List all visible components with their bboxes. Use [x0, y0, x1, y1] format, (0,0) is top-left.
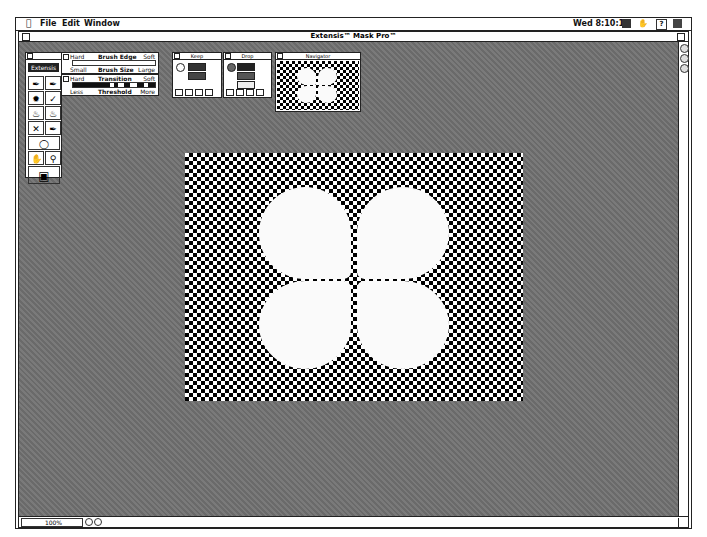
keep-dropper-icon[interactable] — [176, 63, 185, 72]
palette-close-box[interactable] — [63, 54, 69, 60]
keep-color-swatch[interactable] — [188, 72, 206, 80]
mask-petal-bottom-left — [259, 281, 351, 369]
magic-wand-icon[interactable]: ◯ — [28, 136, 60, 150]
threshold-less-label: Less — [70, 88, 83, 95]
brush-edge-title: Brush Edge — [98, 53, 137, 60]
close-box[interactable] — [22, 33, 30, 41]
scroll-button[interactable] — [680, 44, 689, 53]
zoom-out-button[interactable] — [85, 518, 93, 526]
window-titlebar[interactable]: Extensis™ Mask Pro™ — [19, 32, 688, 42]
drop-color-swatch[interactable] — [237, 63, 255, 71]
zoom-box[interactable] — [677, 33, 685, 41]
brush-size-large-label: Large — [138, 66, 155, 73]
brush-edge-soft-label: Soft — [143, 53, 155, 60]
palette-close-box[interactable] — [63, 76, 69, 82]
palette-titlebar[interactable] — [26, 53, 61, 60]
preview-petal — [318, 68, 337, 85]
keep-new-button[interactable] — [185, 89, 193, 96]
keep-color-swatch[interactable] — [188, 63, 206, 71]
application-menu-icon[interactable] — [673, 19, 682, 28]
zoom-field[interactable]: 100% — [21, 518, 83, 527]
status-bar: 100% — [19, 516, 688, 527]
tools-palette: Extensis ✒✒ ✹✓ ♨♨ ✕✒ ◯ ✋⚲ ▣ — [25, 52, 62, 178]
transition-hard-label: Hard — [70, 75, 84, 82]
palette-close-box[interactable] — [27, 53, 33, 59]
drop-new-button[interactable] — [236, 89, 244, 96]
drop-dropper-icon[interactable]: ✒ — [45, 76, 61, 90]
preview-petal — [297, 68, 316, 85]
navigator-preview[interactable] — [277, 61, 359, 110]
grow-box[interactable] — [678, 518, 688, 527]
hand-icon[interactable]: ✋ — [28, 151, 44, 165]
image-canvas[interactable] — [185, 153, 523, 401]
scroll-button[interactable] — [680, 54, 689, 63]
pen-icon[interactable]: ✒ — [45, 121, 61, 135]
brush-size-title: Brush Size — [98, 66, 134, 73]
zoom-icon[interactable]: ⚲ — [45, 151, 61, 165]
threshold-title: Threshold — [98, 88, 132, 95]
help-icon[interactable]: ? — [656, 19, 667, 30]
mask-petal-top-left — [259, 187, 351, 279]
brush-palette: Hard Brush Edge Soft Small Brush Size La… — [61, 52, 159, 74]
window-title: Extensis™ Mask Pro™ — [311, 32, 397, 40]
zoom-value: 100% — [45, 519, 62, 526]
magic-fill-icon[interactable]: ♨ — [28, 106, 44, 120]
zoom-in-button[interactable] — [94, 518, 102, 526]
app-icon[interactable] — [622, 19, 631, 28]
transition-palette: Hard Transition Soft Less Threshold More — [61, 74, 159, 96]
menu-file[interactable]: File — [40, 19, 56, 28]
palette-close-box[interactable] — [225, 53, 231, 59]
keep-palette: Keep — [172, 52, 222, 98]
drop-trash-icon[interactable] — [246, 89, 254, 96]
transition-soft-label: Soft — [143, 75, 155, 82]
brush-edge-hard-label: Hard — [70, 53, 84, 60]
palette-titlebar[interactable]: Drop — [224, 53, 271, 60]
hand-icon[interactable]: ✋ — [638, 19, 647, 28]
palette-titlebar[interactable]: Navigator — [276, 53, 360, 60]
scroll-button[interactable] — [680, 64, 689, 73]
brush-icon[interactable]: ✓ — [45, 91, 61, 105]
drop-palette: Drop — [223, 52, 272, 98]
drop-color-swatch[interactable] — [237, 81, 255, 89]
brush-size-small-label: Small — [70, 66, 87, 73]
vertical-scrollbar[interactable] — [678, 42, 688, 516]
preview-petal — [318, 86, 337, 103]
keep-trash-icon[interactable] — [195, 89, 203, 96]
magic-pen-icon[interactable]: ✕ — [28, 121, 44, 135]
keep-add-button[interactable] — [175, 89, 183, 96]
apple-icon[interactable]:  — [26, 18, 31, 28]
keep-menu-button[interactable] — [205, 89, 213, 96]
menu-window[interactable]: Window — [84, 19, 120, 28]
keep-palette-title: Keep — [191, 53, 203, 59]
bucket-icon[interactable]: ♨ — [45, 106, 61, 120]
extensis-logo: Extensis — [28, 63, 59, 72]
keep-dropper-icon[interactable]: ✒ — [28, 76, 44, 90]
navigator-title: Navigator — [306, 53, 330, 59]
drop-dropper-icon[interactable] — [227, 63, 236, 72]
palette-close-box[interactable] — [277, 53, 283, 59]
screen:  File Edit Window Wed 8:10:17 ✋ ? Exten… — [15, 17, 692, 529]
mask-petal-top-right — [357, 187, 449, 279]
drop-palette-title: Drop — [241, 53, 253, 59]
workspace — [19, 42, 678, 516]
menubar:  File Edit Window Wed 8:10:17 ✋ ? — [16, 18, 691, 31]
drop-menu-button[interactable] — [256, 89, 264, 96]
navigator-palette: Navigator — [275, 52, 361, 112]
mask-view-icon[interactable]: ▣ — [28, 166, 60, 184]
transition-title: Transition — [98, 75, 132, 82]
drop-add-button[interactable] — [226, 89, 234, 96]
menu-edit[interactable]: Edit — [62, 19, 80, 28]
palette-close-box[interactable] — [174, 53, 180, 59]
palette-titlebar[interactable]: Keep — [173, 53, 221, 60]
preview-petal — [297, 86, 316, 103]
magic-brush-icon[interactable]: ✹ — [28, 91, 44, 105]
threshold-more-label: More — [140, 88, 155, 95]
drop-color-swatch[interactable] — [237, 72, 255, 80]
mask-petal-bottom-right — [357, 281, 449, 369]
